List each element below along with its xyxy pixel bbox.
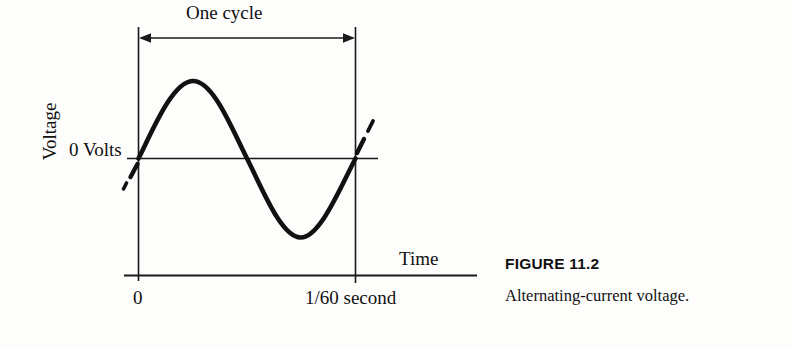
- x-tick-label-end: 1/60 second: [305, 288, 396, 307]
- x-tick-label-start: 0: [133, 288, 143, 307]
- figure-caption-title: FIGURE 11.2: [505, 255, 785, 273]
- sine-waveform-curve: [139, 81, 356, 238]
- y-axis-label: Voltage: [40, 80, 59, 184]
- one-cycle-dimension-arrow: [139, 33, 355, 43]
- one-cycle-annotation-label: One cycle: [186, 3, 262, 22]
- figure-caption: FIGURE 11.2 Alternating-current voltage.: [505, 255, 785, 306]
- figure-page: One cycle Voltage 0 Volts Time 0 1/60 se…: [0, 0, 793, 349]
- waveform-dash-left: [124, 164, 138, 189]
- x-axis-label: Time: [399, 249, 438, 268]
- waveform-drawing: [0, 0, 500, 349]
- figure-caption-text: Alternating-current voltage.: [505, 286, 785, 306]
- zero-volts-label: 0 Volts: [69, 140, 122, 159]
- ac-voltage-figure: One cycle Voltage 0 Volts Time 0 1/60 se…: [0, 0, 500, 349]
- waveform-dash-right: [357, 121, 373, 153]
